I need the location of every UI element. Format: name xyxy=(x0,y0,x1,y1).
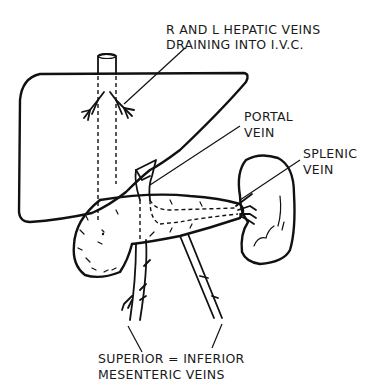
portal-vein-label-line2: VEIN xyxy=(244,125,275,140)
pancreas xyxy=(74,195,243,277)
superior-mesenteric-vein xyxy=(122,240,150,320)
portal-venous-system-diagram: R AND L HEPATIC VEINS DRAINING INTO I.V.… xyxy=(0,0,383,390)
inferior-vena-cava xyxy=(98,54,116,223)
inferior-mesenteric-vein xyxy=(180,234,222,318)
spleen xyxy=(239,155,295,264)
mesenteric-veins-label-line1: SUPERIOR = INFERIOR xyxy=(98,351,245,366)
mesenteric-veins-label-line2: MESENTERIC VEINS xyxy=(98,367,225,382)
splenic-vein-label-line1: SPLENIC xyxy=(303,146,357,161)
hepatic-veins xyxy=(82,92,134,120)
hepatic-veins-label-line1: R AND L HEPATIC VEINS xyxy=(166,22,320,37)
splenic-vein-label-line2: VEIN xyxy=(303,162,334,177)
portal-vein-label-line1: PORTAL xyxy=(244,109,293,124)
hepatic-veins-label-line2: DRAINING INTO I.V.C. xyxy=(166,37,304,52)
